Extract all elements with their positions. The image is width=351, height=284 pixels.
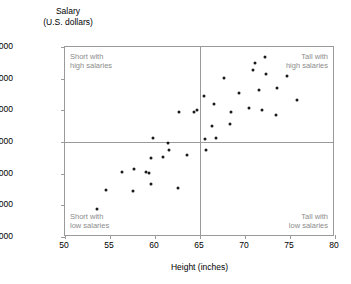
data-point bbox=[162, 156, 165, 159]
data-point bbox=[150, 157, 153, 160]
data-point bbox=[147, 172, 150, 175]
x-axis-tick-label: 65 bbox=[184, 240, 214, 250]
data-point bbox=[133, 168, 136, 171]
quadrant-label-bottom-right: Tall with low salaries bbox=[289, 212, 328, 230]
data-point bbox=[213, 103, 216, 106]
data-point bbox=[192, 110, 195, 113]
data-point bbox=[261, 109, 264, 112]
y-axis-tick-label: 30,000 bbox=[0, 168, 13, 178]
data-point bbox=[264, 73, 267, 76]
x-axis-tick-label: 75 bbox=[274, 240, 304, 250]
data-point bbox=[252, 69, 255, 72]
quadrant-label-bottom-left-line2: low salaries bbox=[70, 221, 109, 230]
quadrant-label-top-right-line1: Tall with bbox=[286, 52, 328, 61]
data-point bbox=[253, 61, 256, 64]
y-axis-title-line2: (U.S. dollars) bbox=[22, 17, 114, 28]
x-axis-tick-mark bbox=[155, 235, 156, 239]
y-axis-tick-label: 50,000 bbox=[0, 41, 13, 51]
x-axis-tick-mark bbox=[200, 235, 201, 239]
data-point bbox=[274, 113, 277, 116]
data-point bbox=[296, 99, 299, 102]
data-point bbox=[196, 108, 199, 111]
y-axis-tick-label: 40,000 bbox=[0, 104, 13, 114]
x-axis-tick-label: 70 bbox=[229, 240, 259, 250]
x-axis-tick-label: 60 bbox=[139, 240, 169, 250]
y-axis-tick-mark bbox=[61, 47, 65, 48]
x-axis-tick-mark bbox=[110, 235, 111, 239]
quadrant-label-top-right-line2: high salaries bbox=[286, 61, 328, 70]
data-point bbox=[177, 186, 180, 189]
data-point bbox=[152, 136, 155, 139]
y-axis-title: Salary (U.S. dollars) bbox=[22, 6, 114, 28]
x-axis-tick-mark bbox=[290, 235, 291, 239]
data-point bbox=[205, 149, 208, 152]
data-point bbox=[166, 141, 169, 144]
data-point bbox=[258, 89, 261, 92]
vertical-reference-line bbox=[200, 47, 201, 235]
y-axis-tick-label: 35,000 bbox=[0, 136, 13, 146]
plot-area: Short with high salaries Tall with high … bbox=[64, 46, 334, 236]
data-point bbox=[223, 77, 226, 80]
data-point bbox=[263, 56, 266, 59]
quadrant-label-top-left-line2: high salaries bbox=[70, 61, 112, 70]
data-point bbox=[275, 87, 278, 90]
y-axis-tick-mark bbox=[61, 142, 65, 143]
data-point bbox=[229, 111, 232, 114]
quadrant-label-top-left-line1: Short with bbox=[70, 52, 112, 61]
quadrant-label-top-left: Short with high salaries bbox=[70, 52, 112, 70]
horizontal-reference-line bbox=[65, 142, 333, 143]
data-point bbox=[247, 106, 250, 109]
quadrant-label-top-right: Tall with high salaries bbox=[286, 52, 328, 70]
y-axis-tick-label: 25,000 bbox=[0, 199, 13, 209]
data-point bbox=[150, 182, 153, 185]
quadrant-label-bottom-right-line1: Tall with bbox=[289, 212, 328, 221]
data-point bbox=[95, 207, 98, 210]
data-point bbox=[168, 148, 171, 151]
x-axis-tick-label: 55 bbox=[94, 240, 124, 250]
x-axis-tick-label: 50 bbox=[49, 240, 79, 250]
y-axis-tick-mark bbox=[61, 205, 65, 206]
y-axis-tick-mark bbox=[61, 79, 65, 80]
quadrant-label-bottom-left: Short with low salaries bbox=[70, 212, 109, 230]
y-axis-tick-mark bbox=[61, 110, 65, 111]
data-point bbox=[120, 170, 123, 173]
data-point bbox=[215, 137, 218, 140]
data-point bbox=[178, 111, 181, 114]
y-axis-title-line1: Salary bbox=[22, 6, 114, 17]
y-axis-tick-label: 20,000 bbox=[0, 231, 13, 241]
data-point bbox=[228, 123, 231, 126]
quadrant-label-bottom-left-line1: Short with bbox=[70, 212, 109, 221]
scatter-plot-figure: Salary (U.S. dollars) 20,00025,00030,000… bbox=[0, 0, 351, 284]
data-point bbox=[104, 188, 107, 191]
x-axis-tick-mark bbox=[245, 235, 246, 239]
data-point bbox=[210, 125, 213, 128]
x-axis-tick-label: 80 bbox=[319, 240, 349, 250]
data-point bbox=[237, 92, 240, 95]
y-axis-tick-mark bbox=[61, 174, 65, 175]
x-axis-tick-mark bbox=[65, 235, 66, 239]
data-point bbox=[132, 189, 135, 192]
quadrant-label-bottom-right-line2: low salaries bbox=[289, 221, 328, 230]
data-point bbox=[185, 154, 188, 157]
y-axis-tick-label: 45,000 bbox=[0, 73, 13, 83]
x-axis-title: Height (inches) bbox=[64, 262, 335, 272]
data-point bbox=[204, 137, 207, 140]
data-point bbox=[286, 75, 289, 78]
x-axis-tick-mark bbox=[335, 235, 336, 239]
data-point bbox=[202, 95, 205, 98]
